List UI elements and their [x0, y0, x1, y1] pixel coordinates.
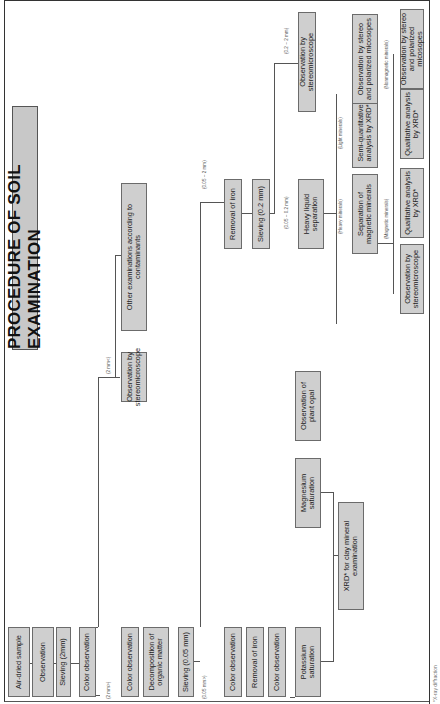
connector: [321, 661, 333, 662]
connector: [30, 663, 32, 664]
step-qual-xrd-magnetic: Qualitative analysis by XRD*: [400, 168, 424, 238]
diagram-stage: PROCEDURE OF SOIL EXAMINATION Air-dried …: [0, 0, 440, 704]
page-title: PROCEDURE OF SOIL EXAMINATION: [12, 106, 38, 350]
step-color-observation-1: Color observation: [79, 627, 96, 697]
connector: [290, 697, 295, 698]
step-magnesium-saturation: Magnesium saturation: [295, 458, 321, 528]
connector: [96, 627, 98, 628]
connector: [71, 663, 79, 664]
connector: [333, 555, 338, 556]
step-removal-iron-1: Removal of iron: [246, 627, 264, 697]
connector: [200, 202, 201, 627]
step-removal-iron-2: Removal of iron: [224, 179, 242, 249]
connector: [321, 492, 333, 493]
connector: [54, 663, 56, 664]
connector: [324, 213, 336, 214]
step-color-observation-4: Color observation: [268, 627, 286, 697]
step-separation-magnetic: Separation of magnetic minerals: [352, 174, 378, 254]
step-obs-stereo-02-2: Observation by stereomicroscope: [298, 12, 316, 112]
connector: [274, 63, 298, 64]
step-obs-stereo-polar-nonmag: Observation by stereo and polarized mico…: [400, 9, 424, 89]
step-sieving-2mm: Sieving (2mm): [56, 627, 71, 697]
connector: [274, 64, 275, 214]
connector: [336, 213, 337, 324]
step-potassium-saturation: Potassium saturation: [295, 627, 321, 697]
step-xrd-clay: XRD* for clay mineral examination: [338, 502, 364, 610]
step-sieving-02: Sieving (0.2 mm): [252, 179, 270, 249]
connector: [242, 213, 252, 214]
connector: [98, 377, 120, 378]
edge-label-lt005: (0.05 mm>): [202, 675, 207, 699]
step-heavy-liquid: Heavy liquid separation: [298, 179, 324, 249]
edge-label-magnetic: (Magnetic minerals): [384, 199, 389, 239]
connector: [96, 695, 100, 696]
step-observation: Observation: [32, 627, 54, 697]
step-semi-quant-xrd: Semi-quantitative analysis by XRD*: [352, 98, 378, 168]
edge-label-lt2: (2 mm>): [106, 682, 111, 699]
step-decomposition-organic: Decomposition of organic matter: [143, 627, 169, 697]
edge-label-heavy: (Heavy minerals): [338, 199, 343, 234]
step-sieving-005: Sieving (0.05 mm): [178, 627, 194, 697]
step-color-observation-3: Color observation: [224, 627, 242, 697]
connector: [393, 54, 394, 294]
footnote: *X-ray diffraction: [432, 665, 438, 702]
step-obs-stereo-polar-light: Observation by stereo and polarized mico…: [352, 14, 378, 104]
step-air-dried-sample: Air-dried sample: [8, 627, 30, 697]
step-observation-plant-opal: Observation of plant opal: [295, 371, 321, 441]
edge-label-r02-2: (0.2 ~ 2 mm): [284, 28, 289, 54]
edge-label-gt2: (2 mm<): [106, 357, 111, 374]
edge-label-r005-2: (0.05 ~ 2 mm): [202, 160, 207, 189]
step-qual-xrd-nonmagnetic: Qualitative analysis by XRD*: [400, 89, 424, 159]
page-frame-bottom: [429, 0, 430, 704]
connector: [98, 377, 99, 627]
connector: [378, 243, 393, 244]
step-other-exams: Other examinations according to contamin…: [121, 183, 147, 331]
connector: [194, 661, 200, 662]
edge-label-r005-02: (0.05 ~ 0.2 mm): [284, 196, 289, 229]
connector: [336, 94, 337, 214]
edge-label-nonmagnetic: (Nonmagnetic minerals): [384, 40, 389, 89]
connector: [200, 202, 224, 203]
connector: [333, 492, 334, 662]
step-color-observation-2: Color observation: [121, 627, 139, 697]
connector: [115, 256, 116, 378]
edge-label-light: (Light minerals): [338, 117, 343, 149]
step-obs-stereo-gt2: Observation by stereomicroscope: [121, 352, 147, 402]
step-obs-stereo-magnetic: Observation by stereomicroscope: [400, 244, 424, 314]
